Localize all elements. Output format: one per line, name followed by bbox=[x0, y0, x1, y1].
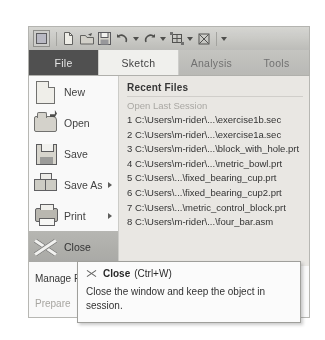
recent-file-item[interactable]: 1 C:\Users\m-rider\...\exercise1b.sec bbox=[127, 113, 303, 128]
menu-item-open-label: Open bbox=[64, 117, 90, 129]
tab-analysis[interactable]: Analysis bbox=[179, 50, 244, 75]
recent-file-item[interactable]: 3 C:\Users\m-rider\...\block_with_hole.p… bbox=[127, 142, 303, 157]
tab-file[interactable]: File bbox=[29, 50, 98, 75]
chevron-right-icon-2 bbox=[108, 213, 112, 219]
section-label-prepare[interactable]: Prepare bbox=[35, 298, 71, 309]
tab-analysis-label: Analysis bbox=[191, 57, 233, 69]
menu-item-close[interactable]: Close bbox=[29, 231, 118, 262]
save-floppy-icon bbox=[33, 141, 59, 166]
new-icon[interactable] bbox=[60, 30, 77, 47]
menu-item-save[interactable]: Save bbox=[29, 138, 118, 169]
redo-icon[interactable] bbox=[141, 30, 158, 47]
customize-caret-icon[interactable] bbox=[221, 37, 227, 41]
open-icon[interactable] bbox=[78, 30, 95, 47]
redo-caret-icon[interactable] bbox=[160, 37, 166, 41]
menu-item-close-label: Close bbox=[64, 241, 91, 253]
regenerate-icon[interactable] bbox=[168, 30, 185, 47]
new-document-icon bbox=[33, 79, 59, 104]
toolbar-separator-2 bbox=[216, 32, 217, 46]
recent-file-item[interactable]: 6 C:\Users\...\fixed_bearing_cup2.prt bbox=[127, 186, 303, 201]
close-x-icon-small bbox=[86, 269, 97, 279]
close-x-icon bbox=[33, 234, 59, 259]
tooltip-shortcut: (Ctrl+W) bbox=[134, 268, 172, 279]
recent-files-panel: Recent Files Open Last Session 1 C:\User… bbox=[119, 76, 309, 266]
tab-tools[interactable]: Tools bbox=[244, 50, 309, 75]
tab-sketch[interactable]: Sketch bbox=[98, 50, 179, 75]
tooltip-body: Close the window and keep the object in … bbox=[86, 285, 292, 312]
menu-item-open[interactable]: Open bbox=[29, 107, 118, 138]
open-last-session-label[interactable]: Open Last Session bbox=[127, 100, 303, 111]
recent-file-item[interactable]: 5 C:\Users\...\fixed_bearing_cup.prt bbox=[127, 171, 303, 186]
close-window-icon[interactable] bbox=[195, 30, 212, 47]
regenerate-caret-icon[interactable] bbox=[187, 37, 193, 41]
recent-files-title: Recent Files bbox=[127, 82, 303, 93]
recent-file-item[interactable]: 7 C:\Users\...\metric_control_block.prt bbox=[127, 201, 303, 216]
divider bbox=[127, 96, 303, 97]
section-label-manage-file[interactable]: Manage F bbox=[35, 273, 80, 284]
menu-item-print-label: Print bbox=[64, 210, 86, 222]
tooltip-close: Close (Ctrl+W) Close the window and keep… bbox=[77, 261, 301, 323]
tab-tools-label: Tools bbox=[263, 57, 289, 69]
application-screenshot: File Sketch Analysis Tools New Open Save… bbox=[0, 0, 325, 340]
menu-item-save-label: Save bbox=[64, 148, 88, 160]
quick-access-toolbar bbox=[28, 26, 310, 50]
undo-caret-icon[interactable] bbox=[133, 37, 139, 41]
tab-sketch-label: Sketch bbox=[121, 57, 155, 69]
menu-item-save-as[interactable]: Save As bbox=[29, 169, 118, 200]
menu-item-save-as-label: Save As bbox=[64, 179, 103, 191]
toolbar-separator bbox=[56, 32, 57, 46]
chevron-right-icon bbox=[108, 182, 112, 188]
save-as-icon bbox=[33, 172, 59, 197]
undo-icon[interactable] bbox=[114, 30, 131, 47]
menu-item-new-label: New bbox=[64, 86, 85, 98]
recent-file-item[interactable]: 4 C:\Users\m-rider\...\metric_bowl.prt bbox=[127, 157, 303, 172]
menu-item-print[interactable]: Print bbox=[29, 200, 118, 231]
open-folder-icon bbox=[33, 110, 59, 135]
recent-file-item[interactable]: 8 C:\Users\m-rider\...\four_bar.asm bbox=[127, 215, 303, 230]
save-icon[interactable] bbox=[96, 30, 113, 47]
menu-item-new[interactable]: New bbox=[29, 76, 118, 107]
app-menu-icon[interactable] bbox=[33, 30, 50, 47]
printer-icon bbox=[33, 203, 59, 228]
tooltip-title: Close bbox=[103, 268, 130, 279]
recent-file-item[interactable]: 2 C:\Users\m-rider\...\exercise1a.sec bbox=[127, 128, 303, 143]
ribbon-tab-strip: File Sketch Analysis Tools bbox=[28, 50, 310, 76]
tooltip-header: Close (Ctrl+W) bbox=[86, 268, 292, 279]
tab-file-label: File bbox=[54, 57, 72, 69]
